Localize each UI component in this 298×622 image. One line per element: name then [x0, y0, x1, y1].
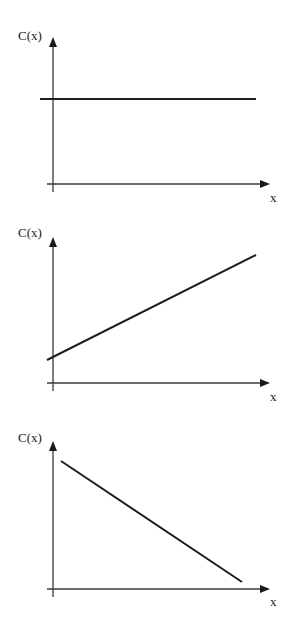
y-axis-label: C(x): [18, 430, 42, 445]
chart-decreasing: C(x)x: [18, 430, 277, 609]
y-axis-arrow-icon: [49, 37, 57, 47]
chart-constant: C(x)x: [18, 28, 277, 205]
x-axis-label: x: [270, 389, 277, 404]
x-axis-label: x: [270, 594, 277, 609]
x-axis-arrow-icon: [260, 180, 270, 188]
y-axis-arrow-icon: [49, 441, 57, 451]
y-axis-arrow-icon: [49, 237, 57, 247]
y-axis-label: C(x): [18, 225, 42, 240]
chart-increasing: C(x)x: [18, 225, 277, 404]
figure: C(x)x C(x)x C(x)x: [0, 0, 298, 622]
x-axis-label: x: [270, 190, 277, 205]
cost-function-line: [61, 461, 242, 582]
x-axis-arrow-icon: [260, 585, 270, 593]
x-axis-arrow-icon: [260, 379, 270, 387]
cost-function-line: [47, 255, 256, 360]
y-axis-label: C(x): [18, 28, 42, 43]
